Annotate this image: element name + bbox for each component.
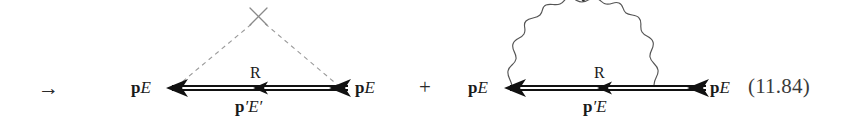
d1-lower-e-prime: ′ bbox=[259, 97, 263, 116]
diagram1-lower-momentum-label: p′E′ bbox=[235, 98, 262, 115]
diagram2-group bbox=[504, 0, 709, 97]
diagram2-lower-momentum-label: p′E bbox=[583, 98, 607, 115]
diagram1-cross-vertex-icon bbox=[250, 8, 267, 25]
diagram1-right-momentum-label: pE bbox=[355, 79, 375, 96]
diagram2-wavy-photon-line bbox=[508, 0, 658, 86]
diagram2-right-momentum-label: pE bbox=[710, 79, 730, 96]
d1-lower-e: E bbox=[248, 97, 258, 116]
equation-number: (11.84) bbox=[748, 76, 810, 97]
diagram-canvas bbox=[0, 0, 857, 126]
d1-left-e: E bbox=[140, 78, 150, 97]
diagram1-group bbox=[166, 8, 351, 97]
diagram2-left-momentum-label: pE bbox=[468, 79, 488, 96]
plus-operator: + bbox=[419, 77, 431, 98]
equation-figure: → + (11.84) pE pE R p′E′ pE pE R p′E bbox=[0, 0, 857, 126]
diagram1-left-momentum-label: pE bbox=[131, 79, 151, 96]
diagram2-propagator-label: R bbox=[594, 65, 605, 81]
d1-right-e: E bbox=[364, 78, 374, 97]
d2-left-e: E bbox=[477, 78, 487, 97]
diagram1-dashed-line-right bbox=[263, 22, 340, 87]
d2-lower-e: E bbox=[596, 97, 606, 116]
d2-right-e: E bbox=[719, 78, 729, 97]
diagram1-propagator-label: R bbox=[250, 65, 261, 81]
diagram1-dashed-line-left bbox=[176, 22, 254, 87]
leading-arrow-operator: → bbox=[38, 78, 59, 99]
